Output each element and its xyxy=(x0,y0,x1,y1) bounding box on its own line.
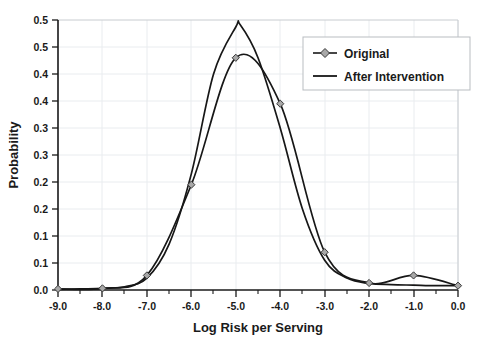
y-axis-ticks xyxy=(52,20,58,290)
x-tick-label: -5.0 xyxy=(227,300,245,312)
y-tick-label: 0.2 xyxy=(33,176,48,188)
x-tick-label: -3.0 xyxy=(316,300,334,312)
y-tick-label: 0.2 xyxy=(33,203,48,215)
y-tick-label: 0.4 xyxy=(33,95,48,107)
x-tick-label: -6.0 xyxy=(182,300,200,312)
y-tick-label: 0.1 xyxy=(33,230,48,242)
y-tick-label: 0.3 xyxy=(33,122,48,134)
x-tick-label: -1.0 xyxy=(405,300,423,312)
x-axis-tick-labels: -9.0 -8.0 -7.0 -6.0 -5.0 -4.0 -3.0 -2.0 … xyxy=(49,300,465,312)
x-tick-label: -8.0 xyxy=(93,300,111,312)
y-tick-label: 0.5 xyxy=(33,14,48,26)
y-tick-label: 0.5 xyxy=(33,41,48,53)
chart-legend: Original After Intervention xyxy=(303,37,470,90)
legend-label-after-intervention: After Intervention xyxy=(344,70,444,84)
x-tick-label: -2.0 xyxy=(360,300,378,312)
y-tick-label: 0.4 xyxy=(33,68,48,80)
y-tick-label: 0.0 xyxy=(33,284,48,296)
y-axis-tick-labels: 0.5 0.5 0.4 0.4 0.3 0.3 0.2 0.2 0.1 0.1 … xyxy=(33,14,48,296)
y-tick-label: 0.3 xyxy=(33,149,48,161)
x-tick-label: -9.0 xyxy=(49,300,67,312)
x-tick-label: -4.0 xyxy=(271,300,289,312)
x-tick-label: 0.0 xyxy=(451,300,466,312)
legend-label-original: Original xyxy=(344,47,389,61)
x-tick-label: -7.0 xyxy=(138,300,156,312)
y-axis-title: Probability xyxy=(6,121,21,189)
y-tick-label: 0.1 xyxy=(33,257,48,269)
probability-distribution-chart: 0.5 0.5 0.4 0.4 0.3 0.3 0.2 0.2 0.1 0.1 … xyxy=(0,0,495,344)
x-axis-title: Log Risk per Serving xyxy=(193,320,323,335)
